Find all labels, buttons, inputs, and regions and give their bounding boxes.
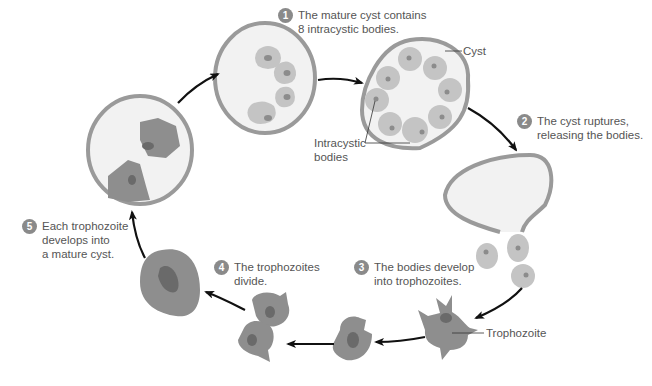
trophozoite-developing — [333, 317, 372, 361]
step-2: 2 The cyst ruptures, releasing the bodie… — [517, 114, 643, 142]
life-cycle-diagram — [0, 0, 652, 386]
ruptured-cyst — [445, 155, 551, 232]
cyst-four-bodies — [215, 23, 315, 133]
step-number-badge: 1 — [278, 8, 293, 23]
step-text: The cyst ruptures, releasing the bodies. — [537, 114, 643, 142]
step-number-badge: 5 — [22, 219, 37, 234]
step-5: 5 Each trophozoite develops into a matur… — [22, 219, 128, 261]
label-trophozoite: Trophozoite — [486, 326, 546, 340]
step-text: The trophozoites divide. — [234, 260, 320, 288]
early-cyst-two-trophozoites — [88, 96, 192, 204]
step-1: 1 The mature cyst contains 8 intracystic… — [278, 8, 426, 36]
step-number-badge: 3 — [354, 260, 369, 275]
step-text: Each trophozoite develops into a mature … — [42, 219, 128, 261]
step-number-badge: 4 — [214, 260, 229, 275]
step-text: The bodies develop into trophozoites. — [374, 260, 474, 288]
step-text: The mature cyst contains 8 intracystic b… — [298, 8, 426, 36]
step-number-badge: 2 — [517, 114, 532, 129]
precyst-trophozoite — [140, 249, 200, 316]
label-cyst: Cyst — [463, 44, 486, 58]
step-4: 4 The trophozoites divide. — [214, 260, 320, 288]
trophozoite — [418, 295, 484, 360]
dividing-trophozoites — [238, 292, 289, 362]
mature-cyst — [362, 39, 468, 148]
label-intracystic-bodies: Intracystic bodies — [314, 136, 366, 164]
released-bodies — [476, 234, 535, 288]
step-3: 3 The bodies develop into trophozoites. — [354, 260, 474, 288]
